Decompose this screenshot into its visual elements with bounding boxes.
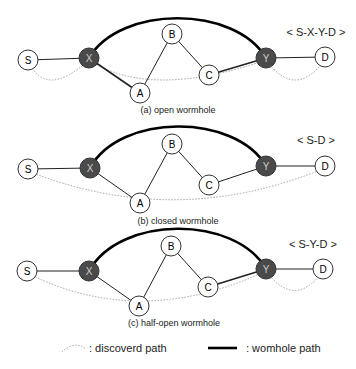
svg-text:D: D (321, 161, 328, 172)
svg-text:A: A (137, 198, 144, 209)
caption: (a) open wormhole (140, 105, 215, 115)
route-label: < S-D > (297, 134, 335, 146)
diagram-closed-wormhole: S X A B C Y D < S-D > (b) closed wormhol… (18, 126, 335, 226)
caption: (c) half-open wormhole (128, 318, 220, 328)
route-label: < S-X-Y-D > (287, 26, 346, 38)
svg-text:B: B (169, 139, 176, 150)
node-a: A (129, 296, 149, 316)
discovered-path-legend-icon (62, 345, 85, 352)
discovered-path-segment (27, 271, 266, 301)
svg-text:S: S (25, 55, 32, 66)
node-c: C (199, 65, 219, 85)
svg-text:X: X (86, 266, 93, 277)
node-x-wormhole: X (80, 158, 100, 178)
legend: : discoverd path : womhole path (62, 342, 321, 354)
node-b: B (161, 236, 181, 256)
svg-text:X: X (86, 53, 93, 64)
discovered-path-segment (28, 168, 325, 200)
svg-text:A: A (137, 88, 144, 99)
node-y-wormhole: Y (256, 48, 276, 68)
svg-text:Y: Y (263, 53, 270, 64)
node-b: B (162, 24, 182, 44)
node-s: S (18, 50, 38, 70)
svg-text:A: A (136, 301, 143, 312)
svg-text:S: S (24, 266, 31, 277)
diagram-half-open-wormhole: S X A B C Y D < S-Y-D > (c) half-open wo… (17, 229, 337, 328)
svg-text:C: C (205, 180, 212, 191)
node-a: A (130, 193, 150, 213)
svg-text:D: D (319, 264, 326, 275)
node-y-wormhole: Y (256, 156, 276, 176)
node-d: D (315, 156, 335, 176)
node-y-wormhole: Y (256, 259, 276, 279)
svg-text:Y: Y (263, 264, 270, 275)
svg-text:C: C (205, 70, 212, 81)
node-c: C (199, 175, 219, 195)
caption: (b) closed wormhole (137, 216, 218, 226)
node-a: A (130, 83, 150, 103)
svg-text:B: B (168, 241, 175, 252)
svg-text:B: B (169, 29, 176, 40)
node-x-wormhole: X (79, 48, 99, 68)
node-b: B (162, 134, 182, 154)
node-s: S (17, 261, 37, 281)
svg-text:C: C (204, 282, 211, 293)
svg-text:S: S (25, 164, 32, 175)
legend-discovered-label: : discoverd path (89, 342, 167, 354)
wormhole-diagram-figure: S X A B C Y D < S-X-Y-D > (a) open wormh… (0, 0, 356, 369)
route-label: < S-Y-D > (289, 238, 337, 250)
svg-text:Y: Y (263, 161, 270, 172)
node-x-wormhole: X (79, 261, 99, 281)
node-d: D (315, 47, 335, 67)
legend-wormhole-label: : womhole path (246, 342, 321, 354)
node-c: C (198, 277, 218, 297)
node-d: D (313, 259, 333, 279)
svg-text:X: X (87, 163, 94, 174)
svg-text:D: D (321, 52, 328, 63)
diagram-open-wormhole: S X A B C Y D < S-X-Y-D > (a) open wormh… (18, 18, 345, 115)
node-s: S (18, 159, 38, 179)
